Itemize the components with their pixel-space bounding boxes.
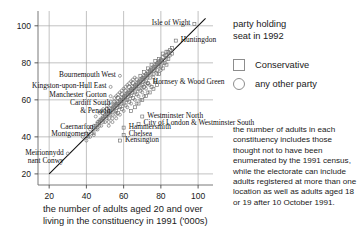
data-point-other-party [94,115,97,118]
data-point-other-party [111,121,114,124]
x-tick-label: 60 [111,191,137,201]
data-point-other-party [154,69,157,72]
scatter-chart-figure: 20406080100 20406080100 Isle of WightHun… [0,0,357,243]
data-point-other-party [120,89,123,92]
data-point-other-party [126,84,129,87]
point-label: Kensington [125,136,159,144]
data-point-other-party [130,102,133,105]
data-point-conservative [161,52,164,55]
data-point-conservative [117,111,120,114]
x-tick-label: 80 [148,191,174,201]
data-point-other-party [124,85,127,88]
data-point-conservative [161,67,164,70]
data-point-other-party [128,89,131,92]
legend-entry-other-party[interactable]: any other party [233,74,357,93]
data-point-conservative [118,139,121,142]
y-tick-label: 60 [9,95,31,105]
data-point-other-party [120,97,123,100]
legend-entry-conservative[interactable]: Conservative [233,55,357,74]
data-point-other-party [143,95,146,98]
data-point-conservative [130,109,133,112]
data-point-other-party [92,132,95,135]
data-point-other-party [109,85,112,88]
point-label: Montgomery [51,130,90,138]
data-point-other-party [126,91,129,94]
data-point-conservative [124,89,127,92]
data-point-conservative [124,104,127,107]
data-point-other-party [66,152,69,155]
data-point-other-party [139,84,142,87]
data-point-other-party [120,102,123,105]
data-point-other-party [118,113,121,116]
data-point-conservative [165,63,168,66]
data-point-other-party [118,91,121,94]
data-point-other-party [98,119,101,122]
y-tick-label: 100 [9,21,31,31]
data-point-other-party [111,106,114,109]
data-point-conservative [146,67,149,70]
data-point-conservative [193,22,196,25]
point-label: Isle of Wight [152,19,191,27]
legend-title-line1: party holding [233,18,357,30]
data-point-other-party [146,91,149,94]
data-point-conservative [161,56,164,59]
data-point-other-party [113,97,116,100]
data-point-other-party [146,82,149,85]
data-point-other-party [141,91,144,94]
data-point-conservative [135,78,138,81]
data-point-conservative [152,87,155,90]
point-label: Hornsey & Wood Green [153,78,225,86]
data-point-other-party [148,84,151,87]
data-point-other-party [107,124,110,127]
data-point-other-party [133,76,136,79]
data-point-conservative [117,97,120,100]
data-point-other-party [150,67,153,70]
data-point-other-party [144,84,147,87]
point-label: Meirionnyddnant Conwy [25,149,64,165]
data-point-other-party [139,78,142,81]
data-point-other-party [137,80,140,83]
data-point-other-party [128,95,131,98]
data-point-other-party [105,117,108,120]
data-point-other-party [154,63,157,66]
x-axis-title: the number of adults aged 20 and over li… [43,203,208,227]
data-point-other-party [135,87,138,90]
data-point-other-party [143,74,146,77]
data-point-other-party [115,117,118,120]
data-point-other-party [113,109,116,112]
data-point-other-party [158,59,161,62]
x-tick-label: 100 [185,191,211,201]
x-tick-label: 40 [73,191,99,201]
data-point-conservative [165,50,168,53]
data-point-other-party [146,71,149,74]
point-label: Cardiff South& Penarth [70,99,110,115]
legend-entries: Conservative any other party [233,55,357,93]
data-point-conservative [133,106,136,109]
data-point-other-party [133,84,136,87]
legend-label-other-party: any other party [255,79,317,89]
point-label: Kingston-upon-Hull East [32,82,107,90]
data-point-other-party [126,106,129,109]
y-tick-label: 40 [9,132,31,142]
data-point-other-party [117,100,120,103]
data-point-conservative [128,85,131,88]
data-point-other-party [131,91,134,94]
data-point-other-party [113,104,116,107]
data-point-conservative [120,93,123,96]
legend: party holding seat in 1992 Conservative … [233,18,357,93]
data-point-other-party [96,121,99,124]
data-point-other-party [115,95,118,98]
data-point-other-party [117,106,120,109]
data-point-other-party [143,80,146,83]
data-point-conservative [139,74,142,77]
data-point-other-party [131,78,134,81]
data-point-other-party [146,76,149,79]
data-point-other-party [135,102,138,105]
x-axis-title-line2: living in the constituency in 1991 ('000… [43,215,208,227]
data-point-conservative [143,85,146,88]
data-point-other-party [100,117,103,120]
data-point-conservative [143,71,146,74]
legend-key-square-icon [233,59,255,71]
data-point-other-party [130,87,133,90]
point-label: Bournemouth West [59,71,116,79]
